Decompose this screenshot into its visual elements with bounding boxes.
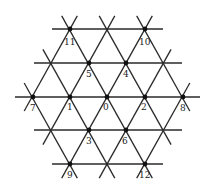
node-12-label: 12 [139, 170, 150, 180]
node-11-label: 11 [64, 37, 75, 47]
node-3-dot [87, 128, 92, 133]
node-12-dot [143, 162, 148, 167]
node-9-label: 9 [67, 170, 73, 180]
node-4-label: 4 [123, 69, 129, 79]
lattice-canvas: 0123456789101112 [0, 0, 211, 196]
node-8-label: 8 [180, 103, 186, 113]
node-10-dot [143, 27, 148, 32]
node-0-dot [105, 95, 110, 100]
diagonal-line-down-right-1 [99, 16, 171, 145]
node-5-label: 5 [86, 69, 92, 79]
node-7-label: 7 [30, 103, 36, 113]
node-4-dot [124, 61, 129, 66]
node-11-dot [68, 27, 73, 32]
node-6-label: 6 [122, 136, 128, 146]
diagonal-line-down-left--1 [43, 16, 115, 145]
triangular-lattice-diagram: 0123456789101112 [0, 0, 211, 196]
diagonal-line-down-left-1 [99, 49, 171, 178]
node-1-label: 1 [67, 102, 73, 112]
node-8-dot [181, 95, 186, 100]
node-7-dot [31, 95, 36, 100]
node-2-dot [143, 95, 148, 100]
node-10-label: 10 [139, 37, 151, 47]
diagonal-line-down-right--1 [43, 49, 115, 178]
node-3-label: 3 [86, 136, 92, 146]
node-6-dot [124, 128, 129, 133]
node-0-label: 0 [103, 102, 109, 112]
node-5-dot [87, 61, 92, 66]
node-9-dot [68, 162, 73, 167]
node-2-label: 2 [141, 102, 147, 112]
node-1-dot [68, 95, 73, 100]
